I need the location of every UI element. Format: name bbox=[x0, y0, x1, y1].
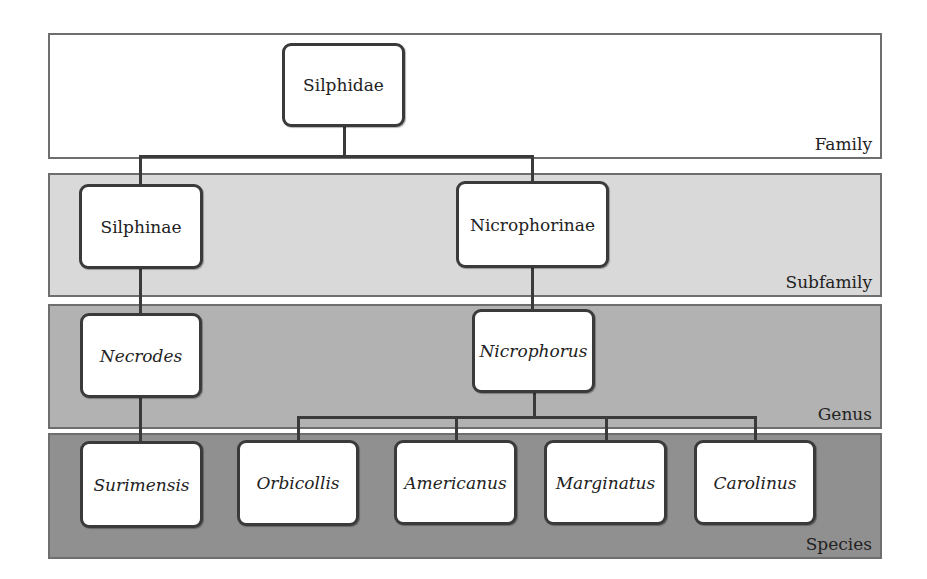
connector-silphinae-necrodes bbox=[139, 267, 142, 315]
band-label-genus: Genus bbox=[818, 404, 872, 424]
node-carolinus: Carolinus bbox=[694, 440, 816, 525]
connector-necrodes-surimensis bbox=[139, 396, 142, 443]
band-label-species: Species bbox=[806, 534, 872, 554]
connector-nicrophorinae-nicrophorus bbox=[531, 266, 534, 311]
band-label-subfamily: Subfamily bbox=[785, 272, 872, 292]
node-surimensis: Surimensis bbox=[80, 441, 203, 528]
band-label-family: Family bbox=[815, 134, 872, 154]
connector-to-americanus bbox=[455, 416, 458, 442]
connector-species-bar bbox=[297, 416, 757, 419]
connector-nicrophorus-stem bbox=[533, 391, 536, 417]
connector-to-carolinus bbox=[754, 416, 757, 442]
node-marginatus: Marginatus bbox=[544, 440, 667, 525]
connector-to-marginatus bbox=[605, 416, 608, 442]
node-silphinae: Silphinae bbox=[79, 184, 203, 269]
node-orbicollis: Orbicollis bbox=[237, 440, 359, 526]
connector-family-bar bbox=[139, 155, 534, 158]
node-nicrophorus: Nicrophorus bbox=[472, 309, 595, 393]
node-nicrophorinae: Nicrophorinae bbox=[456, 181, 609, 268]
band-family: Family bbox=[48, 33, 882, 159]
connector-to-silphinae bbox=[139, 155, 142, 186]
connector-to-nicrophorinae bbox=[531, 155, 534, 183]
connector-family-stem bbox=[343, 126, 346, 157]
node-silphidae: Silphidae bbox=[282, 43, 405, 127]
connector-to-orbicollis bbox=[297, 416, 300, 442]
node-necrodes: Necrodes bbox=[80, 313, 202, 398]
node-americanus: Americanus bbox=[394, 440, 517, 525]
